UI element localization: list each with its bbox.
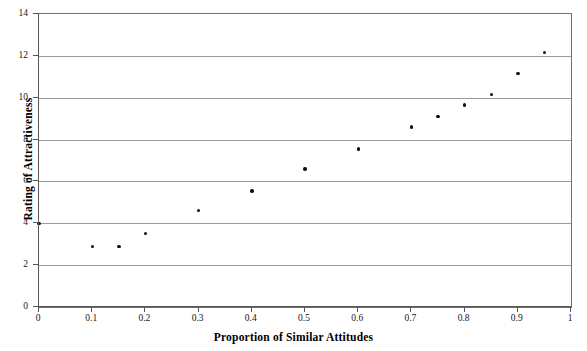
x-axis-tick-label: 0.1 [71, 313, 111, 323]
plot-area [38, 13, 572, 308]
y-axis-title: Rating of Attractiveness [22, 49, 34, 269]
data-point [516, 72, 519, 75]
y-axis-line [38, 13, 39, 307]
data-point [303, 167, 306, 170]
gridline-horizontal [39, 265, 571, 266]
data-point [250, 189, 253, 192]
x-axis-tick-label: 0.5 [284, 313, 324, 323]
x-axis-title: Proportion of Similar Attitudes [0, 331, 587, 343]
x-axis-tick-label: 0.8 [444, 313, 484, 323]
data-point [117, 245, 120, 248]
data-point [91, 245, 94, 248]
x-axis-tick [464, 307, 465, 312]
x-axis-tick-label: 0.7 [390, 313, 430, 323]
gridline-horizontal [39, 140, 571, 141]
gridline-horizontal [39, 56, 571, 57]
x-axis-tick-label: 0.2 [124, 313, 164, 323]
x-axis-tick [410, 307, 411, 312]
x-axis-tick [251, 307, 252, 312]
x-axis-tick [198, 307, 199, 312]
x-axis-tick-label: 0 [18, 313, 58, 323]
data-point [144, 232, 147, 235]
data-point [543, 51, 546, 54]
y-axis-tick-label: 0 [2, 301, 28, 311]
x-axis-tick [91, 307, 92, 312]
x-axis-tick [38, 307, 39, 312]
x-axis-tick [304, 307, 305, 312]
data-point [463, 103, 466, 106]
x-axis-tick-label: 0.6 [337, 313, 377, 323]
data-point [357, 147, 360, 150]
x-axis-tick [570, 307, 571, 312]
x-axis-tick-label: 1 [550, 313, 587, 323]
x-axis-tick [144, 307, 145, 312]
scatter-chart-figure: 02468101214 Rating of Attractiveness 00.… [0, 0, 587, 351]
data-point [410, 125, 413, 128]
data-point [197, 209, 200, 212]
x-axis-tick [517, 307, 518, 312]
data-point [490, 93, 493, 96]
data-point [436, 115, 439, 118]
y-axis-tick [33, 13, 39, 14]
gridline-horizontal [39, 98, 571, 99]
gridline-horizontal [39, 223, 571, 224]
x-axis-tick-label: 0.3 [178, 313, 218, 323]
y-axis-tick-label: 14 [2, 8, 28, 18]
x-axis-tick-label: 0.9 [497, 313, 537, 323]
gridline-horizontal [39, 181, 571, 182]
x-axis-tick-label: 0.4 [231, 313, 271, 323]
x-axis-tick [357, 307, 358, 312]
